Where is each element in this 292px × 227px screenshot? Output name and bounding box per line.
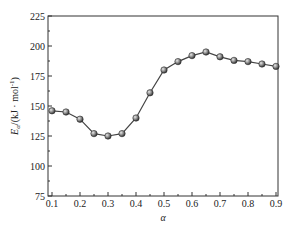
y-tick-label: 100 — [30, 161, 45, 172]
data-point-marker — [175, 58, 181, 64]
y-tick-label: 225 — [30, 11, 45, 22]
svg-text:Eα/(kJ · mol-1): Eα/(kJ · mol-1) — [8, 77, 22, 136]
data-point-marker — [231, 57, 237, 63]
data-point-marker — [91, 130, 97, 136]
x-tick-label: 0.3 — [102, 198, 115, 209]
data-point-marker — [105, 133, 111, 139]
y-tick-label: 125 — [30, 131, 45, 142]
data-point-marker — [273, 63, 279, 69]
x-tick-label: 0.2 — [74, 198, 87, 209]
x-tick-label: 0.1 — [46, 198, 59, 209]
data-point-marker — [147, 90, 153, 96]
data-markers — [49, 49, 279, 139]
activation-energy-chart: 75100125150175200225 0.10.20.30.40.50.60… — [0, 0, 292, 227]
plot-frame — [48, 16, 278, 196]
data-point-marker — [161, 67, 167, 73]
y-axis-ticks: 75100125150175200225 — [30, 11, 52, 202]
x-axis-label: α — [160, 212, 166, 223]
x-tick-label: 0.4 — [130, 198, 143, 209]
data-point-marker — [63, 109, 69, 115]
series-line — [52, 52, 276, 136]
data-point-marker — [133, 115, 139, 121]
data-point-marker — [77, 116, 83, 122]
data-point-marker — [49, 108, 55, 114]
x-tick-label: 0.8 — [242, 198, 255, 209]
y-tick-label: 175 — [30, 71, 45, 82]
x-tick-label: 0.5 — [158, 198, 171, 209]
x-tick-label: 0.7 — [214, 198, 227, 209]
data-point-marker — [259, 61, 265, 67]
y-tick-label: 200 — [30, 41, 45, 52]
data-point-marker — [119, 130, 125, 136]
x-axis-ticks: 0.10.20.30.40.50.60.70.80.9 — [46, 192, 283, 209]
x-tick-label: 0.6 — [186, 198, 199, 209]
data-point-marker — [203, 49, 209, 55]
y-tick-label: 75 — [35, 191, 45, 202]
x-tick-label: 0.9 — [270, 198, 283, 209]
data-point-marker — [217, 54, 223, 60]
y-tick-label: 150 — [30, 101, 45, 112]
data-point-marker — [245, 58, 251, 64]
data-point-marker — [189, 52, 195, 58]
y-axis-label: Eα/(kJ · mol-1) — [8, 77, 22, 136]
